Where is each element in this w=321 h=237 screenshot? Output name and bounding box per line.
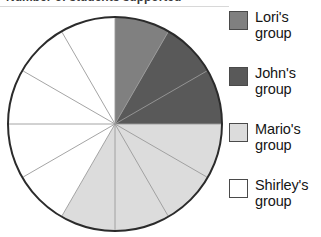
legend-label-shirley: Shirley's group — [255, 177, 308, 209]
legend-item-mario[interactable]: Mario's group — [229, 121, 301, 153]
legend-item-john[interactable]: John's group — [229, 65, 296, 97]
legend-swatch-shirley — [229, 179, 248, 198]
pie-chart — [0, 0, 232, 237]
legend-item-shirley[interactable]: Shirley's group — [229, 177, 308, 209]
legend-item-lori[interactable]: Lori's group — [229, 9, 292, 41]
legend: Lori's group John's group Mario's group … — [229, 9, 321, 237]
legend-label-mario: Mario's group — [255, 121, 301, 153]
legend-label-lori: Lori's group — [255, 9, 292, 41]
legend-swatch-john — [229, 67, 248, 86]
legend-swatch-mario — [229, 123, 248, 142]
legend-label-john: John's group — [255, 65, 296, 97]
pie-chart-screenshot: Number of students supported Lori's grou… — [0, 0, 321, 237]
pie-chart-svg — [0, 0, 232, 237]
legend-swatch-lori — [229, 11, 248, 30]
